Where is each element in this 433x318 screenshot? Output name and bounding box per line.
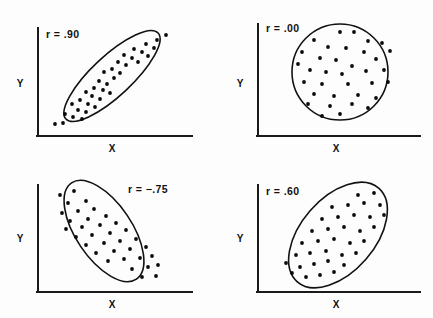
envelope-circle — [292, 24, 388, 120]
x-axis-label: X — [333, 299, 340, 310]
data-points — [53, 33, 168, 126]
x-axis-label: X — [109, 143, 116, 154]
data-points — [284, 191, 386, 279]
axes — [37, 185, 192, 292]
correlation-label: r = .60 — [266, 185, 299, 197]
axes — [257, 185, 420, 292]
panel-r00-plot: Y X r = .00 — [216, 0, 433, 159]
data-envelope — [292, 24, 388, 120]
y-axis-label: Y — [237, 78, 244, 89]
y-axis-label: Y — [17, 78, 24, 89]
y-axis-label: Y — [17, 233, 24, 244]
x-axis-label: X — [333, 143, 340, 154]
panel-rneg75-plot: Y X r = −.75 — [0, 159, 216, 318]
correlation-label: r = .90 — [46, 28, 79, 40]
y-axis-label: Y — [237, 233, 244, 244]
panel-r60: Y X r = .60 — [216, 159, 433, 318]
axes — [37, 28, 192, 136]
panel-r60-plot: Y X r = .60 — [216, 159, 433, 318]
correlation-label: r = .00 — [266, 22, 299, 34]
panel-r90: Y X r = .90 — [0, 0, 216, 159]
correlation-scatterplot-figure: Y X r = .90 — [0, 0, 433, 318]
panel-rneg75: Y X r = −.75 — [0, 159, 216, 318]
panel-r00: Y X r = .00 — [216, 0, 433, 159]
panel-r90-plot: Y X r = .90 — [0, 0, 216, 159]
x-axis-label: X — [109, 299, 116, 310]
correlation-label: r = −.75 — [128, 183, 168, 195]
